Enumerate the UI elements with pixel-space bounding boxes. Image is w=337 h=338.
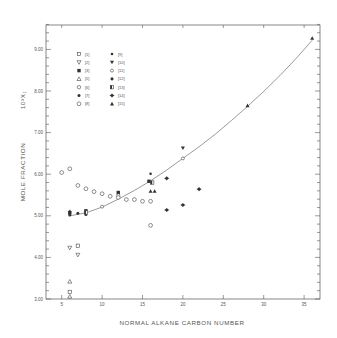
series xyxy=(149,172,152,175)
fit-curve-line xyxy=(70,40,312,216)
starburst-marker xyxy=(110,77,114,81)
square-filled-marker xyxy=(147,180,150,183)
square-open-marker xyxy=(68,290,71,293)
square-half-marker xyxy=(84,211,87,214)
square-filled-marker xyxy=(77,69,80,72)
x-tick-label: 10 xyxy=(100,302,106,307)
triangle-down-open-marker xyxy=(76,253,80,257)
y-tick-label: 3.00 xyxy=(34,297,43,302)
diamond-filled-marker xyxy=(164,176,169,180)
x-tick-label: 5 xyxy=(60,302,63,307)
legend-item: [3] xyxy=(77,68,89,73)
legend-item: [8] xyxy=(77,101,89,106)
y-tick-label: 6.00 xyxy=(34,172,43,177)
series xyxy=(68,280,72,299)
legend-label: [12] xyxy=(118,76,125,81)
circle-filled-small-marker xyxy=(149,172,152,175)
x-tick-label: 15 xyxy=(140,302,146,307)
circle-open-marker xyxy=(100,192,104,196)
series xyxy=(60,167,153,227)
legend-label: [10] xyxy=(118,60,125,65)
diamond-filled-marker xyxy=(181,203,186,207)
legend-label: [8] xyxy=(85,101,89,106)
circle-filled-marker xyxy=(68,213,71,216)
legend-item: [15] xyxy=(110,101,125,106)
circle-open-marker xyxy=(76,184,80,188)
legend: [1][2][3][5][6][7][8][9][10][11][12][13]… xyxy=(77,52,125,107)
legend-item: [14] xyxy=(110,93,125,98)
circle-open-marker xyxy=(141,199,145,203)
circle-open-marker xyxy=(68,167,72,171)
y-axis-title: MOLE FRACTION xyxy=(19,143,26,202)
x-tick-label: 25 xyxy=(221,302,227,307)
triangle-open-marker xyxy=(77,77,81,81)
plot-area: 51015202530353.004.005.006.007.008.009.0… xyxy=(34,24,320,307)
diamond-filled-marker xyxy=(110,93,115,97)
legend-label: [14] xyxy=(118,93,125,98)
legend-label: [13] xyxy=(118,85,125,90)
circle-filled-marker xyxy=(78,94,81,97)
circle-open-marker xyxy=(149,199,153,203)
fit-curve xyxy=(70,40,312,216)
circle-open-small-marker xyxy=(181,157,184,160)
triangle-open-marker xyxy=(68,295,72,299)
legend-item: [11] xyxy=(111,68,125,73)
series xyxy=(164,176,201,212)
data-points xyxy=(60,36,314,298)
x-axis-title: NORMAL ALKANE CARBON NUMBER xyxy=(120,319,245,326)
legend-item: [2] xyxy=(77,60,89,65)
chart: 51015202530353.004.005.006.007.008.009.0… xyxy=(0,0,337,338)
square-open-marker xyxy=(77,52,80,55)
legend-label: [15] xyxy=(118,101,125,106)
legend-label: [9] xyxy=(118,52,122,57)
diamond-filled-marker xyxy=(164,208,169,212)
series xyxy=(68,246,80,257)
circle-open-marker xyxy=(108,194,112,198)
circle-open-marker xyxy=(116,196,120,200)
legend-item: [10] xyxy=(110,60,125,65)
diamond-filled-marker xyxy=(197,187,202,191)
square-half-marker xyxy=(150,181,153,184)
plot-frame xyxy=(46,25,320,299)
triangle-filled-marker xyxy=(310,36,314,40)
legend-label: [3] xyxy=(85,68,89,73)
legend-item: [7] xyxy=(78,93,90,98)
circle-open-marker xyxy=(60,171,64,175)
circle-open-small-marker xyxy=(101,205,104,208)
legend-item: [12] xyxy=(110,76,125,81)
triangle-filled-marker xyxy=(149,189,153,193)
circle-open-small-marker xyxy=(111,69,114,72)
x-tick-label: 30 xyxy=(261,302,267,307)
legend-label: [6] xyxy=(85,85,89,90)
legend-item: [6] xyxy=(77,85,89,90)
triangle-down-filled-marker xyxy=(181,146,185,150)
triangle-open-marker xyxy=(68,280,72,284)
y-axis-unit: 10³X₁ xyxy=(19,91,26,109)
x-tick-label: 35 xyxy=(302,302,308,307)
triangle-down-filled-marker xyxy=(110,61,114,65)
legend-label: [2] xyxy=(85,60,89,65)
y-tick-label: 7.00 xyxy=(34,130,43,135)
circle-open-marker xyxy=(84,187,88,191)
y-tick-label: 8.00 xyxy=(34,89,43,94)
circle-open-marker xyxy=(92,190,96,194)
y-tick-label: 5.00 xyxy=(34,213,43,218)
circle-open-marker xyxy=(133,198,137,202)
circle-open-marker xyxy=(149,223,153,227)
series xyxy=(68,244,79,294)
series xyxy=(181,146,185,150)
circle-filled-small-marker xyxy=(111,53,114,56)
legend-item: [5] xyxy=(77,76,89,81)
triangle-down-open-marker xyxy=(68,246,72,250)
circle-open-marker xyxy=(124,198,128,202)
circle-open-marker xyxy=(77,102,81,106)
x-tick-label: 20 xyxy=(180,302,186,307)
hexagon-open-marker xyxy=(77,86,80,89)
circle-filled-marker xyxy=(76,212,79,215)
legend-item: [9] xyxy=(111,52,123,57)
legend-label: [11] xyxy=(118,68,124,73)
series xyxy=(149,36,315,193)
triangle-down-open-marker xyxy=(77,61,81,65)
legend-label: [5] xyxy=(85,76,89,81)
square-open-marker xyxy=(76,244,79,247)
